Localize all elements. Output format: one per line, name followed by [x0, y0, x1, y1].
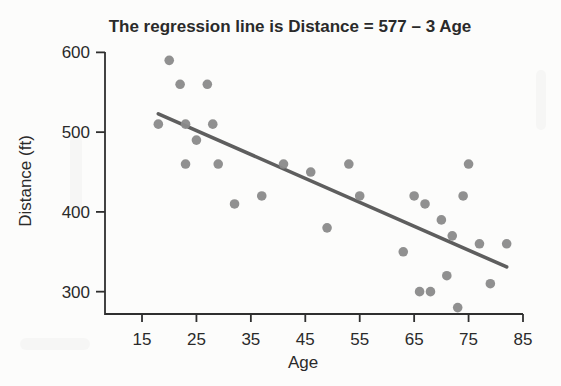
- data-point: [192, 135, 202, 145]
- chart-title: The regression line is Distance = 577 – …: [109, 17, 472, 36]
- data-point: [447, 231, 457, 241]
- data-point: [257, 191, 267, 201]
- data-point: [442, 271, 452, 281]
- data-point: [458, 191, 468, 201]
- y-tick-label: 500: [62, 123, 90, 142]
- data-point: [426, 287, 436, 297]
- y-axis-label: Distance (ft): [16, 135, 35, 227]
- data-point: [181, 159, 191, 169]
- data-point: [279, 159, 289, 169]
- data-point: [213, 159, 223, 169]
- x-axis-label: Age: [288, 353, 318, 372]
- data-point: [420, 199, 430, 209]
- data-point: [355, 191, 365, 201]
- regression-line-group: [158, 114, 506, 267]
- data-point: [344, 159, 354, 169]
- data-point: [409, 191, 419, 201]
- scan-smudge: [20, 338, 90, 350]
- x-tick-label: 45: [296, 330, 315, 349]
- x-tick-label: 15: [133, 330, 152, 349]
- data-point: [453, 303, 463, 313]
- data-point: [502, 239, 512, 249]
- data-point: [306, 167, 316, 177]
- data-point: [415, 287, 425, 297]
- data-point: [154, 119, 164, 129]
- data-point: [398, 247, 408, 257]
- data-point: [203, 79, 213, 89]
- x-tick-label: 75: [459, 330, 478, 349]
- x-tick-label: 65: [405, 330, 424, 349]
- y-axis-ticks: 300400500600: [62, 43, 105, 301]
- data-point: [208, 119, 218, 129]
- y-tick-label: 400: [62, 203, 90, 222]
- x-tick-label: 35: [241, 330, 260, 349]
- data-point: [175, 79, 185, 89]
- data-points-group: [154, 56, 512, 313]
- data-point: [322, 223, 332, 233]
- data-point: [230, 199, 240, 209]
- data-point: [164, 56, 174, 66]
- scan-smudge: [536, 70, 546, 130]
- data-point: [181, 119, 191, 129]
- regression-line: [158, 114, 506, 267]
- data-point: [486, 279, 496, 289]
- data-point: [464, 159, 474, 169]
- scatter-plot-figure: The regression line is Distance = 577 – …: [0, 0, 561, 386]
- data-point: [437, 215, 447, 225]
- x-tick-label: 85: [514, 330, 533, 349]
- x-tick-label: 25: [187, 330, 206, 349]
- y-tick-label: 300: [62, 283, 90, 302]
- x-tick-label: 55: [350, 330, 369, 349]
- scatter-plot: The regression line is Distance = 577 – …: [0, 0, 561, 386]
- x-axis-ticks: 1525354555657585: [133, 314, 533, 349]
- data-point: [475, 239, 485, 249]
- y-tick-label: 600: [62, 43, 90, 62]
